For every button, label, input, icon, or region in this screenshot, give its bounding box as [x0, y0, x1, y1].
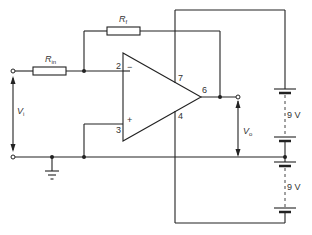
pin-6-label: 6 [202, 86, 207, 95]
label-vi: Vi [17, 107, 24, 117]
pin-3-label: 3 [116, 126, 121, 135]
plus-sign: + [127, 116, 132, 125]
output-terminal [236, 95, 240, 99]
resistor-rin [33, 67, 66, 75]
label-vo: Vo [243, 127, 252, 137]
label-rin: Rin [45, 55, 56, 65]
label-supply-lower: 9 V [287, 183, 301, 192]
pin-4-label: 4 [178, 112, 183, 121]
label-supply-upper: 9 V [287, 111, 301, 120]
junction-dot [218, 95, 222, 99]
battery-upper-icon [274, 89, 296, 157]
pin-2-label: 2 [116, 62, 121, 71]
circuit-schematic [0, 0, 312, 235]
minus-sign: − [127, 63, 132, 72]
input-terminal-top [11, 69, 15, 73]
pin-7-label: 7 [178, 74, 183, 83]
resistor-rf [107, 27, 140, 35]
label-rf: Rf [119, 15, 127, 25]
input-terminal-bottom [11, 155, 15, 159]
ground-icon [45, 157, 59, 179]
circuit-diagram: Rin Rf 2 − 3 + 7 6 4 Vi Vo 9 V 9 V [0, 0, 312, 235]
op-amp [123, 53, 201, 141]
